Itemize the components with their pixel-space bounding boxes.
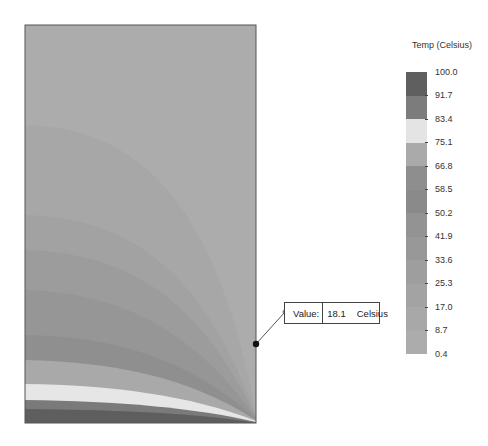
- colorbar-tick: [425, 189, 428, 190]
- colorbar-tick: [425, 119, 428, 120]
- colorbar-tick: [425, 236, 428, 237]
- colorbar-tick-label: 58.5: [435, 184, 453, 194]
- colorbar-tick-label: 33.6: [435, 255, 453, 265]
- colorbar-tick-label: 91.7: [435, 90, 453, 100]
- colorbar-tick: [425, 283, 428, 284]
- colorbar-tick-label: 100.0: [435, 67, 458, 77]
- colorbar-tick-label: 0.4: [435, 349, 448, 359]
- colorbar-segment: [406, 284, 427, 307]
- probe-leader-line: [256, 312, 285, 344]
- colorbar-tick: [425, 330, 428, 331]
- colorbar-tick-label: 8.7: [435, 325, 448, 335]
- colorbar-segment: [406, 307, 427, 331]
- colorbar-tick: [425, 307, 428, 308]
- colorbar-tick-label: 66.8: [435, 161, 453, 171]
- colorbar-tick-label: 25.3: [435, 278, 453, 288]
- probe-label: Value:: [285, 303, 323, 323]
- colorbar-segment: [406, 72, 427, 96]
- colorbar-segment: [406, 96, 427, 119]
- colorbar-segment: [406, 260, 427, 284]
- probe-unit: Celsius: [354, 308, 391, 319]
- colorbar-tick-label: 41.9: [435, 231, 453, 241]
- colorbar-segment: [406, 166, 427, 190]
- colorbar-tick-label: 17.0: [435, 302, 453, 312]
- colorbar-segment: [406, 237, 427, 260]
- colorbar-segment: [406, 331, 427, 354]
- colorbar-segment: [406, 143, 427, 166]
- colorbar-tick: [425, 95, 428, 96]
- colorbar-segment: [406, 213, 427, 237]
- probe-point[interactable]: [253, 341, 259, 347]
- colorbar: [406, 72, 427, 354]
- legend-title: Temp (Celsius): [412, 40, 472, 50]
- colorbar-tick: [425, 213, 428, 214]
- colorbar-tick: [425, 166, 428, 167]
- colorbar-tick-label: 83.4: [435, 114, 453, 124]
- colorbar-tick: [425, 260, 428, 261]
- probe-value: 18.1: [323, 308, 354, 319]
- colorbar-tick-label: 75.1: [435, 137, 453, 147]
- colorbar-segment: [406, 119, 427, 143]
- colorbar-tick-label: 50.2: [435, 208, 453, 218]
- probe-value-box: Value: 18.1 Celsius: [284, 302, 380, 324]
- colorbar-tick: [425, 142, 428, 143]
- colorbar-segment: [406, 190, 427, 213]
